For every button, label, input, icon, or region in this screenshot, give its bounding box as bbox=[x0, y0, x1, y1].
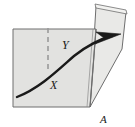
right-plane bbox=[90, 6, 126, 107]
optics-diagram: Y X A bbox=[0, 0, 135, 127]
figure-container: Y X A bbox=[0, 0, 135, 127]
figure-caption-a: A bbox=[99, 113, 107, 125]
angle-label-x: X bbox=[49, 78, 58, 92]
left-plane bbox=[13, 29, 96, 107]
